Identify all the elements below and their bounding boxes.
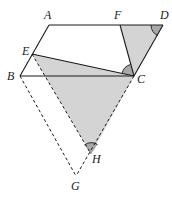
geometry-diagram: A F D E B C H G [0, 0, 172, 204]
label-f: F [113, 8, 122, 22]
label-c: C [137, 72, 146, 86]
label-g: G [71, 179, 80, 193]
label-h: H [91, 152, 102, 166]
label-e: E [21, 44, 30, 58]
label-d: D [159, 8, 169, 22]
label-b: B [7, 69, 15, 83]
shaded-triangle-ech [32, 54, 134, 154]
label-a: A [43, 8, 52, 22]
